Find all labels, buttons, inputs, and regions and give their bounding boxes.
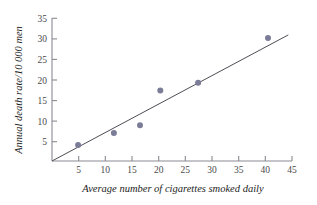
y-tick-label: 15 (38, 96, 48, 106)
x-tick-label: 45 (287, 165, 297, 175)
y-tick-label: 25 (38, 55, 48, 65)
data-point (157, 88, 163, 94)
y-axis-title: Annual death rate/10 000 men (13, 26, 24, 155)
data-point (195, 80, 201, 86)
x-tick-label: 30 (207, 165, 217, 175)
x-tick-label: 15 (127, 165, 137, 175)
scatter-chart: 35 30 25 20 15 10 5 5 10 15 20 25 30 35 … (0, 0, 317, 205)
x-axis-ticks (79, 156, 292, 161)
x-axis-title: Average number of cigarettes smoked dail… (81, 183, 264, 194)
x-axis-tick-labels: 5 10 15 20 25 30 35 40 45 (76, 165, 297, 175)
x-tick-label: 5 (76, 165, 81, 175)
plot-area: 35 30 25 20 15 10 5 5 10 15 20 25 30 35 … (0, 0, 317, 205)
x-tick-label: 40 (261, 165, 271, 175)
y-axis-tick-labels: 35 30 25 20 15 10 5 (38, 14, 48, 147)
y-tick-label: 30 (38, 34, 48, 44)
data-points (75, 35, 271, 148)
x-tick-label: 25 (181, 165, 191, 175)
y-axis-ticks (52, 18, 57, 141)
y-tick-label: 5 (42, 137, 47, 147)
data-point (265, 35, 271, 41)
x-tick-label: 20 (154, 165, 164, 175)
x-tick-label: 10 (101, 165, 111, 175)
y-tick-label: 10 (38, 117, 48, 127)
trend-line (52, 35, 288, 161)
x-tick-label: 35 (234, 165, 244, 175)
y-tick-label: 35 (38, 14, 48, 24)
data-point (111, 130, 117, 136)
data-point (75, 142, 81, 148)
y-tick-label: 20 (38, 76, 48, 86)
data-point (137, 122, 143, 128)
